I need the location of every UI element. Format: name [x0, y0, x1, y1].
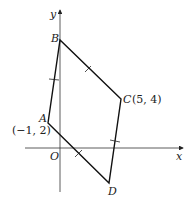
x-axis-label: x: [176, 150, 183, 163]
diagram-canvas: y x O B C (5, 4) A (−1, 2) D: [0, 0, 189, 200]
tick-ab: [49, 79, 59, 80]
point-b-label: B: [50, 32, 59, 45]
point-c-coords: (5, 4): [132, 93, 162, 106]
point-a-coords: (−1, 2): [12, 124, 51, 137]
point-c-label: C: [123, 93, 132, 106]
point-d-label: D: [107, 185, 117, 198]
origin-label: O: [50, 150, 59, 163]
y-axis-label: y: [49, 8, 57, 21]
